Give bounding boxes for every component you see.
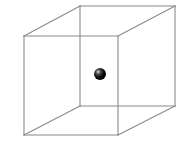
cube-edge-front-top-right-to-back-top-right xyxy=(118,6,175,36)
cube-edge-front-bottom-right-to-back-bottom-right xyxy=(118,106,175,135)
sphere-ball xyxy=(94,68,106,80)
cube-edge-front-bottom-left-to-back-bottom-left xyxy=(24,106,80,135)
cube-edge-front-top-left-to-back-top-left xyxy=(24,6,80,36)
cube-diagram-svg xyxy=(0,0,192,157)
cube-diagram xyxy=(0,0,192,157)
